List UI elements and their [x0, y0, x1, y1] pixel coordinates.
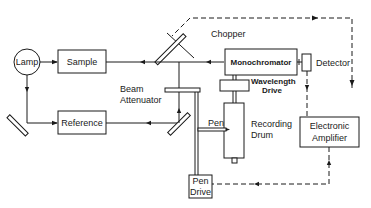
pen-drive-label-2: Drive: [190, 187, 211, 197]
lamp: Lamp: [14, 49, 40, 75]
sample-box: Sample: [58, 50, 106, 73]
beam-attenuator: Beam Attenuator: [120, 84, 200, 175]
pen-drive-label-1: Pen: [192, 176, 208, 186]
monochromator-label: Monochromator: [231, 58, 292, 67]
reference-box: Reference: [58, 111, 106, 134]
pen-label: Pen: [208, 118, 224, 128]
wavelength-drive: Wavelength Drive: [220, 75, 296, 103]
monochromator-box: Monochromator: [225, 49, 297, 75]
wavelength-drive-label-1: Wavelength: [251, 77, 296, 86]
reference-label: Reference: [61, 118, 103, 128]
amplifier-label-2: Amplifier: [312, 133, 347, 143]
beam-attenuator-label-1: Beam: [120, 84, 144, 94]
lamp-label: Lamp: [16, 57, 39, 67]
recording-drum-label-1: Recording: [251, 119, 292, 129]
wavelength-drive-label-2: Drive: [262, 86, 283, 95]
mirror-left: [7, 115, 28, 136]
detector-label: Detector: [316, 58, 350, 68]
amplifier-label-1: Electronic: [310, 121, 350, 131]
beam-attenuator-label-2: Attenuator: [120, 95, 162, 105]
detector: Detector: [302, 54, 350, 71]
recording-drum-label-2: Drum: [251, 130, 273, 140]
recording-drum: Recording Drum: [224, 103, 292, 163]
pen-drive-box: Pen Drive: [189, 175, 212, 198]
electronic-amplifier-box: Electronic Amplifier: [300, 117, 359, 147]
chopper-label: Chopper: [211, 29, 246, 39]
spectrophotometer-diagram: Lamp Sample Reference Beam Attenuator Ch…: [0, 0, 371, 208]
sample-label: Sample: [67, 57, 98, 67]
chopper: [155, 33, 194, 65]
